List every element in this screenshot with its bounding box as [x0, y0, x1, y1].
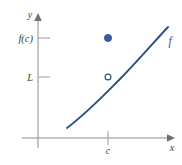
y-axis-label: y: [27, 9, 33, 20]
y-tick-label-fc: f(c): [18, 33, 33, 45]
x-axis-label: x: [169, 142, 175, 153]
function-curve: [67, 27, 168, 128]
filled-point-marker: [104, 34, 111, 41]
figure-canvas: y x f(c) L c f: [0, 0, 182, 165]
open-point-marker: [105, 74, 111, 80]
x-tick-label-c: c: [106, 145, 111, 156]
curve-label-f: f: [168, 35, 173, 48]
y-axis-arrowhead: [34, 13, 42, 21]
x-axis-arrowhead: [167, 134, 175, 142]
limit-figure: y x f(c) L c f: [0, 0, 182, 165]
y-tick-label-L: L: [26, 72, 33, 83]
